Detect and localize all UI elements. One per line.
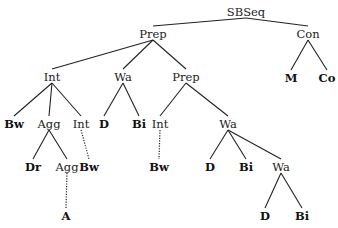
tree-edge [228, 130, 281, 159]
tree-edge [104, 83, 123, 116]
tree-node-label: Prep [172, 70, 199, 84]
tree-leaf-label: A [61, 209, 72, 223]
syntax-tree-diagram: SBSeqPrepConIntWaPrepMCoBwAggIntDBiIntWa… [0, 0, 338, 228]
tree-edges [14, 18, 327, 208]
tree-leaf-label: D [205, 160, 215, 174]
tree-edge [14, 83, 52, 116]
tree-edge [49, 130, 67, 159]
tree-nodes: SBSeqPrepConIntWaPrepMCoBwAggIntDBiIntWa… [4, 5, 336, 223]
tree-leaf-label: D [99, 117, 109, 131]
tree-edge [81, 130, 89, 159]
tree-leaf-label: D [260, 209, 270, 223]
tree-leaf-label: Dr [25, 160, 42, 174]
tree-leaf-label: Bi [239, 160, 254, 174]
tree-edge [49, 83, 52, 116]
tree-edge [66, 173, 67, 208]
tree-node-label: SBSeq [227, 5, 266, 19]
tree-node-label: Wa [219, 117, 237, 131]
tree-node-label: Wa [272, 160, 290, 174]
tree-leaf-label: Bw [149, 160, 170, 174]
tree-node-label: Int [44, 70, 61, 84]
tree-edge [281, 173, 302, 208]
tree-edge [153, 40, 186, 69]
tree-leaf-label: Bw [79, 160, 100, 174]
tree-edge [265, 173, 281, 208]
tree-edge [159, 130, 160, 159]
tree-edge [210, 130, 228, 159]
tree-node-label: Agg [54, 160, 79, 174]
tree-edge [123, 83, 139, 116]
tree-leaf-label: M [285, 71, 298, 85]
tree-edge [52, 83, 81, 116]
tree-edge [291, 40, 308, 70]
tree-leaf-label: Bi [295, 209, 310, 223]
tree-leaf-label: Bi [132, 117, 147, 131]
tree-node-label: Con [296, 27, 320, 41]
tree-node-label: Wa [114, 70, 132, 84]
tree-node-label: Agg [36, 117, 61, 131]
tree-leaf-label: Bw [4, 117, 25, 131]
tree-edge [153, 18, 246, 26]
tree-node-label: Int [73, 117, 90, 131]
tree-edge [160, 83, 186, 116]
tree-edge [33, 130, 49, 159]
tree-leaf-label: Co [319, 71, 336, 85]
tree-edge [246, 18, 308, 26]
tree-edge [308, 40, 327, 70]
tree-node-label: Prep [139, 27, 166, 41]
tree-node-label: Int [152, 117, 169, 131]
tree-edge [186, 83, 228, 116]
